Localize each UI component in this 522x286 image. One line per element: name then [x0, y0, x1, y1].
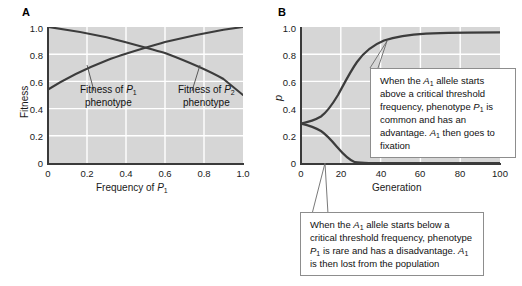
- panel-a-ytick-0: 0: [24, 158, 43, 169]
- panel-b-xtick-20: 20: [336, 168, 347, 179]
- panel-a-xtick-0.2: 0.2: [80, 168, 93, 179]
- callout-bottom-var3-sub: 1: [464, 250, 468, 257]
- panel-b-y-axis-title: p: [272, 95, 284, 101]
- panel-a-xtick-1.0: 1.0: [236, 168, 249, 179]
- curve-label-p2-line1: Fitness of P2: [178, 84, 235, 97]
- curve-label-p2-line2: phenotype: [178, 97, 235, 109]
- panel-label-a: A: [22, 6, 30, 18]
- callout-bottom-seg4: is then lost from the population: [310, 258, 439, 269]
- panel-b-ytick-0.2: 0.2: [277, 131, 296, 142]
- callout-top-var2-sub: 1: [480, 106, 484, 113]
- panel-a-xtick-0.6: 0.6: [158, 168, 171, 179]
- panel-b-xtick-100: 100: [492, 168, 508, 179]
- panel-b-y-axis: [300, 27, 302, 164]
- panel-a-ytick-1.0: 1.0: [24, 23, 43, 34]
- callout-bottom-seg3: is rare and has a disadvantage.: [320, 245, 458, 256]
- curve-label-p1-line2: phenotype: [80, 97, 137, 109]
- figure-container: A 1.0 0.8 0.6 0.4 0.2 0 0: [0, 0, 522, 286]
- callout-below-threshold: When the A1 allele starts below a critic…: [300, 212, 484, 276]
- callout-top-var1-sub: 1: [430, 80, 434, 87]
- panel-b-xtick-80: 80: [455, 168, 466, 179]
- panel-a-x-axis: [47, 163, 244, 165]
- panel-b-xtick-60: 60: [415, 168, 426, 179]
- panel-a-xtick-0.8: 0.8: [197, 168, 210, 179]
- callout-top-var1: A: [423, 75, 429, 86]
- panel-b-xtick-40: 40: [376, 168, 387, 179]
- panel-b-ytick-1.0: 1.0: [277, 23, 296, 34]
- panel-b-x-axis: [300, 163, 501, 165]
- callout-top-var2: P: [473, 101, 479, 112]
- curve-label-p2-var: P: [224, 84, 231, 95]
- callout-bottom-var2-sub: 1: [316, 250, 320, 257]
- callout-bottom-var1: A: [353, 219, 359, 230]
- panel-a-x-axis-title: Frequency of P1: [96, 182, 168, 193]
- curve-fitness-p1: [48, 27, 243, 90]
- curve-label-p2: Fitness of P2 phenotype: [178, 84, 235, 109]
- panel-a-xtick-0: 0: [45, 168, 50, 179]
- curve-label-p1-var: P: [126, 84, 133, 95]
- panel-a-ytick-0.2: 0.2: [24, 131, 43, 142]
- panel-a-xlabel-text: Frequency of: [96, 182, 157, 193]
- panel-b-xtick-0: 0: [298, 168, 303, 179]
- curve-label-p1-line1: Fitness of P1: [80, 84, 137, 97]
- panel-a-ytick-0.8: 0.8: [24, 50, 43, 61]
- panel-b-ytick-0.4: 0.4: [277, 104, 296, 115]
- panel-a-y-axis-title: Fitness: [19, 86, 30, 118]
- panel-label-b: B: [278, 6, 286, 18]
- panel-b-ytick-0: 0: [277, 158, 296, 169]
- curve-label-p1-sub: 1: [133, 89, 137, 96]
- panel-b-ytick-0.8: 0.8: [277, 50, 296, 61]
- callout-above-threshold: When the A1 allele starts above a critic…: [370, 68, 516, 158]
- leader-lines-bottom: [300, 158, 360, 216]
- curve-label-p2-text: Fitness of: [178, 84, 224, 95]
- panel-a-y-axis: [47, 27, 49, 164]
- callout-bottom-seg1: When the: [310, 219, 353, 230]
- panel-b-ytick-0.6: 0.6: [277, 77, 296, 88]
- panel-b-x-axis-title: Generation: [372, 182, 421, 193]
- callout-bottom-var1-sub: 1: [360, 224, 364, 231]
- callout-top-var3-sub: 1: [436, 132, 440, 139]
- panel-a-xlabel-var: P: [157, 182, 164, 193]
- curve-label-p1: Fitness of P1 phenotype: [80, 84, 137, 109]
- curve-label-p2-sub: 2: [231, 89, 235, 96]
- panel-a-xtick-0.4: 0.4: [119, 168, 132, 179]
- callout-top-seg1: When the: [380, 75, 423, 86]
- panel-a-xlabel-sub: 1: [164, 187, 168, 194]
- curve-label-p1-text: Fitness of: [80, 84, 126, 95]
